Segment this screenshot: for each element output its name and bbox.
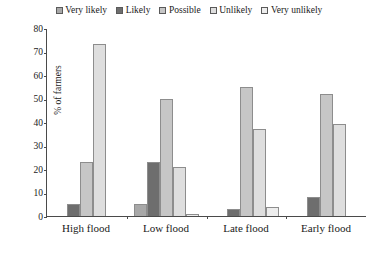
legend-item-likely: Likely [116,6,150,16]
bar[interactable] [227,209,240,216]
bar[interactable] [240,87,253,216]
bar-group [127,29,207,216]
legend-item-possible: Possible [159,6,200,16]
x-axis-label: High flood [46,222,126,234]
bar-groups [47,29,366,216]
bar-chart-figure: Very likely Likely Possible Unlikely Ver… [0,0,378,258]
bar[interactable] [80,162,93,216]
plot-area: % of farmers 01020304050607080 [46,29,366,217]
y-axis-tick-label: 10 [19,189,43,199]
x-axis-labels: High floodLow floodLate floodEarly flood [46,222,366,234]
bar[interactable] [307,197,320,216]
y-axis-tick-mark [44,217,47,218]
y-axis-tick-label: 80 [19,25,43,35]
legend-swatch-likely [116,7,123,14]
bar[interactable] [134,204,147,216]
legend-swatch-very-unlikely [261,7,268,14]
x-axis-label: Early flood [286,222,366,234]
y-axis-tick-label: 50 [19,95,43,105]
legend-item-very-likely: Very likely [56,6,107,16]
x-axis-label: Low flood [126,222,206,234]
chart-legend: Very likely Likely Possible Unlikely Ver… [0,6,378,16]
y-axis-tick-label: 40 [19,119,43,129]
bar-group [47,29,127,216]
bar-group [286,29,366,216]
bar[interactable] [186,214,199,216]
bar[interactable] [67,204,80,216]
legend-swatch-very-likely [56,7,63,14]
y-axis-tick-label: 30 [19,142,43,152]
bar[interactable] [333,124,346,216]
y-axis-tick-label: 60 [19,72,43,82]
legend-label-very-unlikely: Very unlikely [271,6,322,16]
y-axis-tick-label: 70 [19,48,43,58]
legend-label-unlikely: Unlikely [219,6,252,16]
legend-swatch-unlikely [210,7,217,14]
bar-group [207,29,287,216]
legend-label-likely: Likely [126,6,151,16]
bar[interactable] [173,167,186,216]
bar[interactable] [147,162,160,216]
bar[interactable] [266,207,279,216]
legend-swatch-possible [159,7,166,14]
y-axis-tick-label: 20 [19,166,43,176]
bar[interactable] [253,129,266,216]
legend-item-very-unlikely: Very unlikely [261,6,322,16]
bar[interactable] [160,99,173,217]
bar[interactable] [93,44,106,216]
legend-item-unlikely: Unlikely [210,6,253,16]
x-axis-label: Late flood [206,222,286,234]
legend-label-very-likely: Very likely [65,6,107,16]
y-axis-tick-label: 0 [19,213,43,223]
bar[interactable] [320,94,333,216]
legend-label-possible: Possible [169,6,201,16]
